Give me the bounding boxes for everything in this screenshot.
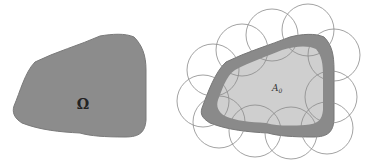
omega-domain	[13, 34, 146, 137]
diagram-canvas: Ω A0	[0, 0, 374, 163]
omega-label: Ω	[77, 96, 89, 112]
